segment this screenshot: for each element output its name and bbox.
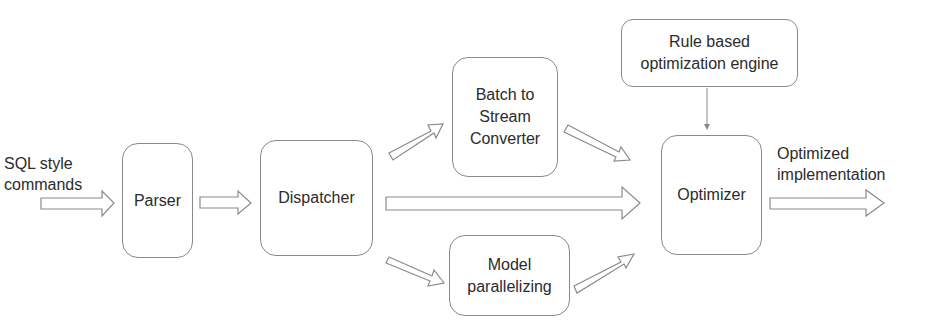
node-rule-engine: Rule based optimization engine bbox=[621, 19, 798, 87]
node-dispatcher: Dispatcher bbox=[260, 140, 373, 256]
arrow-dispatcher-to-batch bbox=[389, 124, 443, 160]
node-model-label-1: Model bbox=[467, 254, 552, 276]
node-batch-to-stream: Batch to Stream Converter bbox=[452, 57, 558, 177]
node-optimizer: Optimizer bbox=[661, 135, 762, 255]
node-parser: Parser bbox=[122, 143, 193, 258]
arrow-batch-to-optimizer bbox=[564, 125, 630, 161]
node-batch-label-2: Stream bbox=[470, 106, 540, 128]
node-batch-label-3: Converter bbox=[470, 128, 540, 150]
node-parser-label: Parser bbox=[134, 190, 181, 212]
output-label: Optimized implementation bbox=[777, 143, 886, 185]
node-dispatcher-label: Dispatcher bbox=[278, 187, 354, 209]
arrow-optimizer-to-output bbox=[770, 190, 884, 216]
node-rule-label-1: Rule based bbox=[641, 31, 779, 53]
arrow-model-to-optimizer bbox=[574, 254, 634, 293]
node-rule-label-2: optimization engine bbox=[641, 53, 779, 75]
output-label-line-1: Optimized bbox=[777, 143, 886, 164]
node-model-parallelizing: Model parallelizing bbox=[449, 235, 570, 316]
arrow-dispatcher-to-model bbox=[386, 257, 444, 286]
node-optimizer-label: Optimizer bbox=[677, 184, 745, 206]
input-label-line-2: commands bbox=[4, 174, 82, 195]
output-label-line-2: implementation bbox=[777, 164, 886, 185]
input-label: SQL style commands bbox=[4, 153, 82, 195]
node-model-label-2: parallelizing bbox=[467, 276, 552, 298]
input-label-line-1: SQL style bbox=[4, 153, 82, 174]
arrow-dispatcher-to-optimizer bbox=[386, 187, 640, 219]
node-batch-label-1: Batch to bbox=[470, 84, 540, 106]
arrow-parser-to-dispatcher bbox=[200, 191, 251, 214]
